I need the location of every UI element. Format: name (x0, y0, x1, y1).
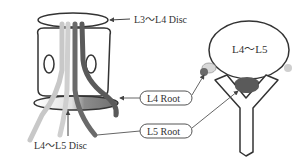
l4-l5-body-label: L4～L5 (232, 43, 268, 55)
left-root-dot (200, 68, 208, 76)
herniated-disc-overlay (235, 79, 259, 93)
posterior-view (30, 13, 130, 140)
l5-root-leader-right (192, 91, 238, 128)
l3-l4-disc-label: L3～L4 Disc (134, 14, 188, 25)
l4-root-label: L4 Root (147, 93, 180, 104)
axial-view (200, 21, 292, 156)
l5-root-label: L5 Root (147, 126, 180, 137)
l5-root-leader-left (97, 131, 140, 135)
l4-l5-disc-label: L4～L5 Disc (34, 140, 88, 151)
l3-l4-disc-leader (110, 19, 130, 20)
right-root-dot (284, 64, 292, 72)
l4-root-leader-right (192, 75, 204, 95)
left-pedicle (44, 55, 54, 73)
spine-nerve-root-diagram: L3～L4 Disc L4～L5 Disc L4～L5 L4 Root L5 R… (0, 0, 308, 168)
l4-root-tag: L4 Root (120, 75, 204, 105)
